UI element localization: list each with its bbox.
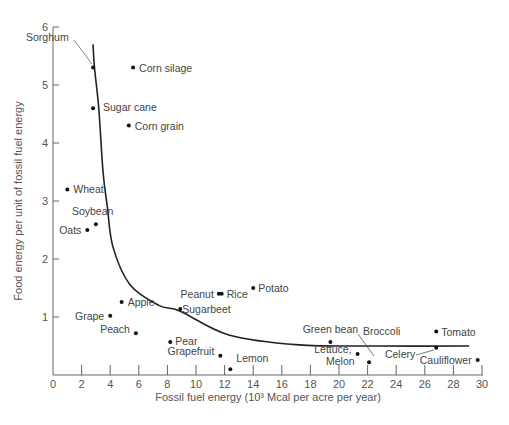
y-tick-label: 1 xyxy=(42,311,48,323)
broccoli-leader xyxy=(358,334,374,356)
point-label: Melon xyxy=(326,355,355,367)
x-tick-label: 2 xyxy=(79,378,85,390)
point-label: Celery xyxy=(385,348,416,360)
data-point xyxy=(367,360,371,364)
scatter-chart: 024681012141618202224262830 123456 Sorgh… xyxy=(0,0,509,425)
y-tick-label: 5 xyxy=(42,79,48,91)
point-label: Cauliflower xyxy=(420,354,472,366)
y-axis-title: Food energy per unit of fossil fuel ener… xyxy=(12,101,24,301)
data-point xyxy=(94,222,98,226)
point-label: Broccoli xyxy=(363,325,400,337)
point-label: Sorghum xyxy=(26,31,69,43)
sorghum-leader xyxy=(74,40,92,64)
x-tick-label: 6 xyxy=(136,378,142,390)
point-label: Corn grain xyxy=(135,120,184,132)
data-point xyxy=(251,286,255,290)
point-label: Soybean xyxy=(72,205,114,217)
point-label: Sugar cane xyxy=(103,101,157,113)
x-tick-label: 22 xyxy=(361,378,373,390)
x-tick-label: 30 xyxy=(476,378,488,390)
y-tick-label: 3 xyxy=(42,195,48,207)
data-point xyxy=(120,300,124,304)
point-label: Peanut xyxy=(181,288,214,300)
y-ticks: 123456 xyxy=(42,21,59,323)
x-tick-label: 18 xyxy=(304,378,316,390)
x-tick-label: 28 xyxy=(447,378,459,390)
point-label: Sugarbeet xyxy=(182,303,231,315)
point-label: Lemon xyxy=(236,352,268,364)
data-point xyxy=(476,358,480,362)
x-axis-title: Fossil fuel energy (10³ Mcal per acre pe… xyxy=(155,391,381,403)
x-tick-label: 16 xyxy=(276,378,288,390)
data-point xyxy=(228,367,232,371)
point-label: Corn silage xyxy=(139,62,192,74)
x-tick-label: 4 xyxy=(107,378,113,390)
x-ticks: 024681012141618202224262830 xyxy=(50,365,488,390)
point-label: Grape xyxy=(75,310,104,322)
point-label: Grapefruit xyxy=(168,345,215,357)
point-label: Oats xyxy=(59,224,81,236)
x-tick-label: 12 xyxy=(218,378,230,390)
x-tick-label: 24 xyxy=(390,378,402,390)
x-tick-label: 0 xyxy=(50,378,56,390)
point-label: Apple xyxy=(128,296,155,308)
x-tick-label: 10 xyxy=(190,378,202,390)
point-labels: SorghumCorn silageSugar caneCorn grainWh… xyxy=(26,31,476,368)
y-tick-label: 4 xyxy=(42,137,48,149)
point-label: Peach xyxy=(100,323,130,335)
data-point xyxy=(108,314,112,318)
data-point xyxy=(91,106,95,110)
data-point xyxy=(220,292,224,296)
x-tick-label: 26 xyxy=(419,378,431,390)
data-point xyxy=(91,66,95,70)
data-point xyxy=(218,354,222,358)
data-point xyxy=(434,346,438,350)
point-label: Rice xyxy=(227,288,248,300)
x-tick-label: 20 xyxy=(333,378,345,390)
data-point xyxy=(134,331,138,335)
data-point xyxy=(131,66,135,70)
y-tick-label: 2 xyxy=(42,253,48,265)
data-point xyxy=(127,124,131,128)
point-label: Potato xyxy=(258,282,289,294)
point-label: Wheat xyxy=(73,183,103,195)
leader-lines xyxy=(74,40,434,356)
point-label: Green bean xyxy=(303,323,359,335)
data-point xyxy=(356,352,360,356)
data-point xyxy=(85,228,89,232)
x-tick-label: 14 xyxy=(247,378,259,390)
data-point xyxy=(434,330,438,334)
data-point xyxy=(168,340,172,344)
data-point xyxy=(65,187,69,191)
x-tick-label: 8 xyxy=(164,378,170,390)
point-label: Lettuce, xyxy=(314,343,351,355)
point-label: Tomato xyxy=(441,326,476,338)
